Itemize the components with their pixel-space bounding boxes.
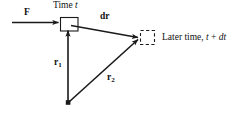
diagram-canvas bbox=[0, 0, 238, 114]
force-label: F bbox=[24, 8, 30, 18]
time-t-label: Time t bbox=[53, 1, 78, 11]
position-vector-r1-label: r1 bbox=[54, 58, 62, 69]
displacement-dr-label: dr bbox=[100, 12, 110, 22]
displacement-dr-arrow bbox=[71, 26, 138, 38]
origin-point-marker bbox=[66, 100, 71, 105]
particle-box-time-t bbox=[61, 18, 79, 32]
position-vector-r2-label: r2 bbox=[107, 73, 115, 84]
position-vector-r2-arrow bbox=[70, 40, 139, 102]
later-time-label: Later time, t + dt bbox=[162, 33, 226, 43]
vector-diagram-figure: F Time t dr r1 r2 Later time, t + dt bbox=[0, 0, 238, 114]
later-position-box bbox=[141, 31, 155, 45]
